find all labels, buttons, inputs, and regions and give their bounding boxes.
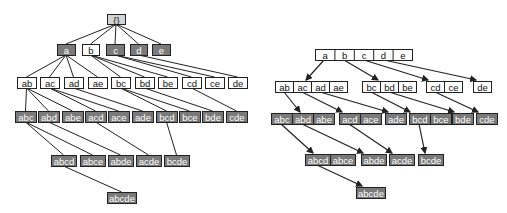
tree-node-e: e [153, 45, 171, 57]
node-label: a [64, 45, 70, 56]
tree-node-acde: acde [137, 156, 162, 168]
node-group-g_bcd: bcdbce [410, 114, 452, 126]
node-label-abe: abe [316, 114, 332, 125]
node-label-bce: bce [433, 114, 448, 125]
node-label-bcd: bcd [412, 114, 427, 125]
node-group-g_abc: abcabdabe [272, 114, 335, 126]
node-label: ade [135, 112, 151, 123]
tree-edge-ab-abc [26, 88, 27, 111]
tree-edge-a-ae [66, 55, 98, 77]
node-label: bcd [159, 112, 174, 123]
tree-arrow [281, 124, 313, 153]
tree-node-abc: abc [16, 112, 37, 124]
node-label-bd: bd [384, 82, 395, 93]
node-label-bcde: bcde [421, 155, 442, 166]
node-label-ace: ace [363, 114, 378, 125]
tree-arrow [317, 165, 362, 186]
node-group-g_ade: ade [386, 114, 407, 126]
node-label: abde [110, 156, 131, 167]
tree-node-abcde: abcde [108, 193, 137, 205]
tree-node-abce: abce [81, 156, 106, 168]
tree-node-abde: abde [109, 156, 134, 168]
node-label-d: d [381, 50, 386, 61]
node-label-ae: ae [333, 82, 344, 93]
node-label-abde: abde [363, 155, 384, 166]
tree-node-bc: bc [112, 78, 131, 90]
tree-node-ac: ac [41, 78, 60, 90]
node-label: bde [205, 112, 221, 123]
node-label-abc: abc [274, 114, 290, 125]
node-label: bcde [167, 156, 188, 167]
tree-edge-cd-cde [192, 88, 237, 111]
node-group-g_abcd: abcdabce [306, 155, 356, 167]
tree-edge-a-ad [66, 55, 74, 77]
tree-node-ad: ad [65, 78, 84, 90]
tree-edge-a-ac [50, 55, 67, 77]
node-label: ab [22, 78, 33, 89]
tree-edge-ab-abe [27, 88, 73, 111]
node-group-g1: abcde [316, 50, 413, 62]
tree-node-bd: bd [136, 78, 155, 90]
node-label: abcde [109, 193, 135, 204]
left-tree-nodes: {}abcdeabacadaebcbdbecdcedeabcabdabeacda… [16, 15, 248, 205]
tree-node-ce: ce [206, 78, 225, 90]
tree-edge-abc-abcd [26, 122, 64, 155]
node-group-g_bcde: bcde [419, 155, 444, 167]
set-enumeration-diagram: {}abcdeabacadaebcbdbecdcedeabcabdabeacda… [0, 0, 507, 213]
tree-node-ae: ae [89, 78, 108, 90]
node-label: c [113, 45, 118, 56]
tree-edge-acd-acde [96, 122, 149, 155]
node-label: bd [140, 78, 151, 89]
node-group-g_bc: bcbdbe [363, 82, 417, 94]
node-label-abcde: abcde [358, 188, 384, 199]
tree-node-ab: ab [18, 78, 37, 90]
tree-arrow [302, 124, 363, 153]
tree-node-abd: abd [39, 112, 60, 124]
node-label: cde [229, 112, 244, 123]
tree-node-d: d [131, 45, 148, 57]
node-label-bde: bde [455, 114, 471, 125]
node-label: abd [41, 112, 57, 123]
node-label: ac [45, 78, 55, 89]
tree-node-c: c [107, 45, 125, 57]
node-group-g_cd: cdce [427, 82, 463, 94]
node-label-acd: acd [342, 114, 357, 125]
node-label: abc [18, 112, 34, 123]
tree-edge-a-ab [27, 55, 67, 77]
tree-node-cde: cde [227, 112, 248, 124]
node-group-g_abcde: abcde [357, 188, 386, 200]
node-label-b: b [342, 50, 347, 61]
tree-node-a: a [58, 45, 76, 57]
node-label: bce [182, 112, 197, 123]
node-label-cd: cd [430, 82, 440, 93]
tree-node-ade: ade [133, 112, 154, 124]
node-label-abce: abce [333, 155, 354, 166]
node-label-ab: ab [279, 82, 290, 93]
right-tree-groups: abcdeabacadaebcbdbecdcedeabcabdabeacdace… [272, 50, 498, 200]
tree-edge-bc-bcd [121, 88, 167, 111]
tree-arrow [306, 60, 324, 80]
tree-edge-root-a [66, 24, 116, 44]
node-label: ce [210, 78, 220, 89]
node-label: ad [69, 78, 80, 89]
node-label: acd [88, 112, 103, 123]
node-label: ae [93, 78, 104, 89]
tree-arrow [302, 92, 342, 112]
tree-edge-abcd-abcde [64, 166, 122, 192]
tree-node-de: de [229, 78, 248, 90]
node-label: {} [113, 15, 119, 26]
tree-edge-b-bc [91, 55, 121, 77]
node-label-ade: ade [388, 114, 404, 125]
tree-edge-ab-abd [27, 88, 49, 111]
node-label: d [136, 45, 141, 56]
tree-node-abe: abe [63, 112, 84, 124]
node-label-ad: ad [315, 82, 326, 93]
tree-node-be: be [159, 78, 178, 90]
tree-node-acd: acd [86, 112, 107, 124]
tree-node-bcd: bcd [157, 112, 178, 124]
tree-node-bce: bce [180, 112, 201, 124]
node-label-bc: bc [366, 82, 376, 93]
node-group-g_acd: acdace [340, 114, 382, 126]
tree-arrow [435, 92, 478, 112]
node-label-acde: acde [392, 155, 413, 166]
